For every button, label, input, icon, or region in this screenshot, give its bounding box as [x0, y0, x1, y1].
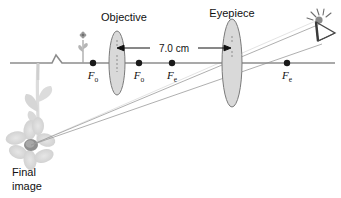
axis-break-zigzag-icon: [47, 55, 67, 63]
objective-lens[interactable]: [109, 31, 125, 95]
focal-label-fo-left: Fo: [87, 69, 99, 84]
focal-label-fo-right: Fo: [133, 69, 145, 84]
final-image-label-line1: Final: [12, 166, 36, 178]
focal-dot-fe-left: [169, 60, 175, 66]
eye-icon: [307, 9, 335, 41]
separation-label: 7.0 cm: [159, 43, 189, 54]
eyepiece-lens[interactable]: [222, 19, 242, 107]
optics-diagram-svg: 7.0 cm Fo Fo Fe Fe Objective Eyepiece Fi…: [0, 0, 341, 198]
large-flower-image-icon: [5, 64, 57, 171]
focal-label-fe-left: Fe: [166, 69, 178, 84]
focal-label-fe-right: Fe: [281, 69, 293, 84]
eyepiece-label: Eyepiece: [209, 7, 254, 19]
focal-dot-fo-right: [136, 60, 142, 66]
focal-dot-fo-left: [90, 60, 96, 66]
small-flower-object-icon: [78, 31, 88, 63]
objective-label: Objective: [101, 11, 147, 23]
final-image-label-line2: image: [12, 180, 42, 192]
focal-dot-fe-right: [284, 60, 290, 66]
figure-canvas: 7.0 cm Fo Fo Fe Fe Objective Eyepiece Fi…: [0, 0, 341, 198]
